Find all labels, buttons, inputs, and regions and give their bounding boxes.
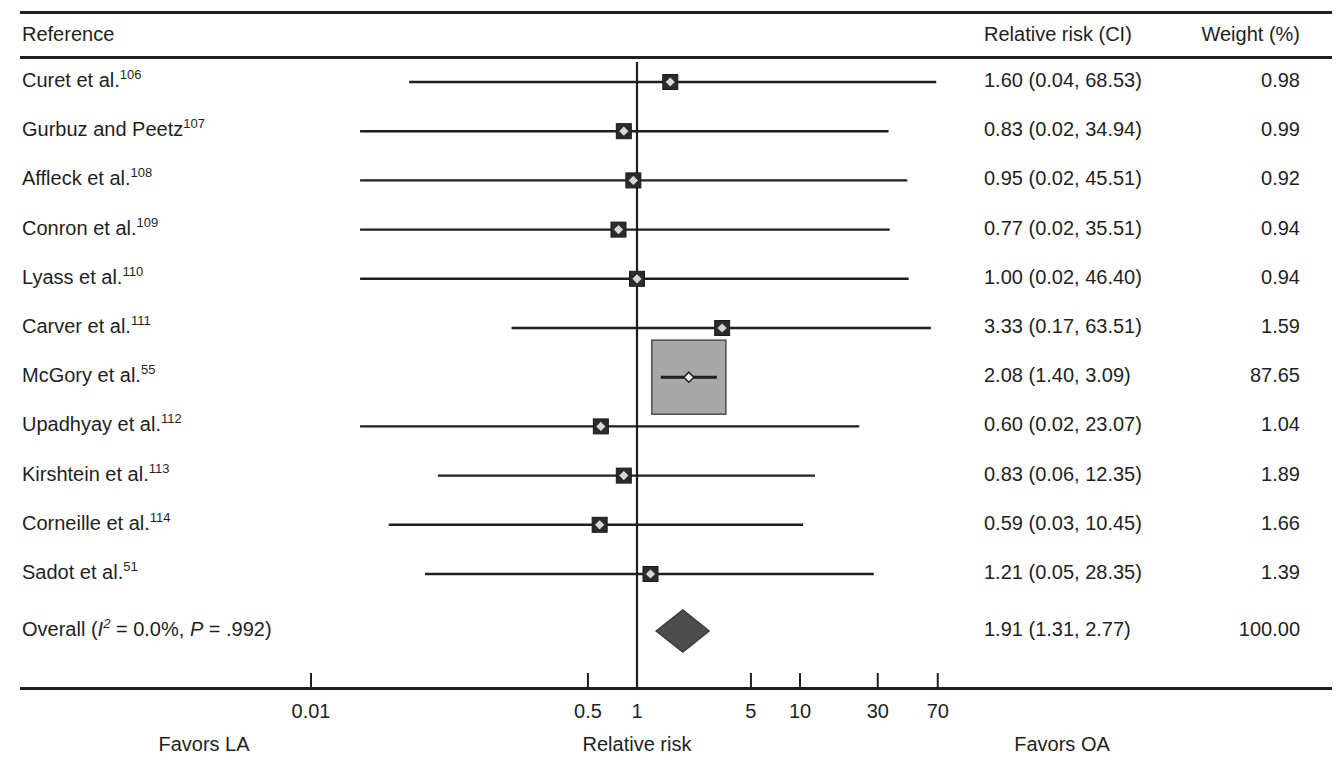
- footer-favors-left: Favors LA: [158, 733, 249, 756]
- row-label-reference: Upadhyay et al.112: [22, 413, 182, 436]
- row-label-citation: 112: [161, 412, 182, 427]
- axis-tick-label: 5: [745, 700, 756, 723]
- row-label-text: Curet et al.: [22, 69, 120, 91]
- row-estimate-value: 2.08 (1.40, 3.09): [984, 364, 1131, 387]
- row-estimate-value: 0.83 (0.02, 34.94): [984, 118, 1142, 141]
- row-label-text: Carver et al.: [22, 315, 131, 337]
- row-weight-value: 1.89: [1180, 463, 1300, 486]
- overall-weight-value: 100.00: [1180, 618, 1300, 641]
- row-weight-value: 0.99: [1180, 118, 1300, 141]
- row-label-reference: Lyass et al.110: [22, 266, 143, 289]
- overall-label-i2-value: = 0.0%,: [110, 618, 190, 640]
- forest-row-marker: [360, 222, 890, 237]
- row-label-reference: Curet et al.106: [22, 69, 142, 92]
- row-label-reference: Conron et al.109: [22, 217, 158, 240]
- row-weight-value: 1.04: [1180, 413, 1300, 436]
- row-label-text: Kirshtein et al.: [22, 463, 149, 485]
- overall-label-p-value: = .992): [203, 618, 271, 640]
- forest-row-marker: [360, 124, 888, 139]
- forest-row-marker: [512, 321, 931, 336]
- row-estimate-value: 0.60 (0.02, 23.07): [984, 413, 1142, 436]
- row-estimate-value: 1.60 (0.04, 68.53): [984, 69, 1142, 92]
- row-label-text: Sadot et al.: [22, 561, 123, 583]
- row-label-citation: 114: [150, 510, 171, 525]
- axis-tick-label: 0.01: [292, 700, 331, 723]
- row-label-text: Gurbuz and Peetz: [22, 118, 183, 140]
- row-label-reference: Kirshtein et al.113: [22, 463, 169, 486]
- row-estimate-value: 0.59 (0.03, 10.45): [984, 512, 1142, 535]
- row-weight-value: 1.39: [1180, 561, 1300, 584]
- header-bottom-rule: [20, 56, 1332, 59]
- forest-row-marker: [409, 75, 936, 90]
- row-label-citation: 107: [183, 117, 205, 132]
- row-weight-value: 0.94: [1180, 217, 1300, 240]
- row-label-text: Upadhyay et al.: [22, 413, 161, 435]
- footer-favors-right: Favors OA: [1014, 733, 1110, 756]
- row-weight-value: 0.94: [1180, 266, 1300, 289]
- row-label-citation: 113: [149, 461, 170, 476]
- forest-row-marker: [360, 271, 909, 286]
- table-bottom-rule: [20, 687, 1332, 690]
- axis-tick-label: 30: [867, 700, 889, 723]
- row-weight-value: 1.66: [1180, 512, 1300, 535]
- row-label-text: McGory et al.: [22, 364, 141, 386]
- row-label-citation: 51: [123, 559, 137, 574]
- row-label-citation: 106: [120, 67, 142, 82]
- axis-tick-label: 70: [927, 700, 949, 723]
- forest-plot-canvas: [0, 0, 1344, 765]
- forest-row-marker: [360, 173, 907, 188]
- row-weight-value: 1.59: [1180, 315, 1300, 338]
- row-weight-value: 87.65: [1180, 364, 1300, 387]
- row-estimate-value: 0.83 (0.06, 12.35): [984, 463, 1142, 486]
- row-label-citation: 55: [141, 363, 155, 378]
- overall-estimate-value: 1.91 (1.31, 2.77): [984, 618, 1131, 641]
- row-label-citation: 108: [131, 166, 153, 181]
- row-estimate-value: 1.00 (0.02, 46.40): [984, 266, 1142, 289]
- row-estimate-value: 0.95 (0.02, 45.51): [984, 167, 1142, 190]
- overall-diamond: [656, 610, 709, 652]
- header-top-rule: [20, 11, 1332, 14]
- column-header-weight-text: Weight (%): [1201, 23, 1300, 45]
- row-label-reference: Sadot et al.51: [22, 561, 138, 584]
- row-label-text: Corneille et al.: [22, 512, 150, 534]
- row-label-reference: McGory et al.55: [22, 364, 155, 387]
- row-weight-value: 0.98: [1180, 69, 1300, 92]
- forest-row-marker: [389, 517, 803, 532]
- axis-tick-label: 1: [631, 700, 642, 723]
- forest-row-marker: [360, 419, 859, 434]
- row-estimate-value: 0.77 (0.02, 35.51): [984, 217, 1142, 240]
- row-estimate-value: 3.33 (0.17, 63.51): [984, 315, 1142, 338]
- column-header-reference: Reference: [22, 23, 114, 46]
- forest-row-marker: [438, 468, 815, 483]
- overall-label-prefix: Overall (: [22, 618, 98, 640]
- axis-tick-label: 0.5: [574, 700, 602, 723]
- row-label-citation: 109: [137, 215, 159, 230]
- axis-tick-label: 10: [789, 700, 811, 723]
- row-estimate-value: 1.21 (0.05, 28.35): [984, 561, 1142, 584]
- row-label-reference: Carver et al.111: [22, 315, 151, 338]
- row-label-reference: Affleck et al.108: [22, 167, 152, 190]
- row-label-text: Lyass et al.: [22, 266, 122, 288]
- forest-row-marker: [425, 567, 874, 582]
- forest-row-marker: [652, 340, 726, 414]
- row-label-citation: 111: [131, 313, 151, 328]
- axis-title: Relative risk: [583, 733, 692, 756]
- row-label-reference: Corneille et al.114: [22, 512, 171, 535]
- row-label-citation: 110: [122, 264, 143, 279]
- column-header-weight: Weight (%): [1180, 23, 1300, 46]
- row-label-reference: Gurbuz and Peetz107: [22, 118, 205, 141]
- row-label-text: Affleck et al.: [22, 167, 131, 189]
- row-label-text: Conron et al.: [22, 217, 137, 239]
- overall-label: Overall (I2 = 0.0%, P = .992): [22, 618, 272, 641]
- row-weight-value: 0.92: [1180, 167, 1300, 190]
- column-header-estimate: Relative risk (CI): [984, 23, 1132, 46]
- overall-label-p-symbol: P: [190, 618, 203, 640]
